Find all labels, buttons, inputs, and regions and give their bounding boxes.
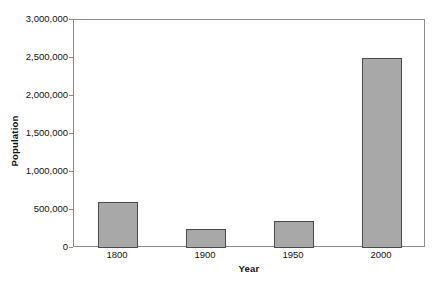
x-axis-tick-label: 1800	[87, 250, 147, 260]
x-axis-title: Year	[73, 263, 425, 274]
bar	[362, 58, 402, 248]
bar	[98, 202, 138, 248]
y-axis-tick-label: 2,500,000	[0, 52, 68, 62]
y-axis-title: Population	[0, 0, 28, 282]
y-axis-tick-label: 0	[0, 242, 68, 252]
bar	[186, 229, 226, 248]
bar	[274, 221, 314, 248]
y-axis-tick-mark	[69, 247, 73, 248]
y-axis-tick-label: 2,000,000	[0, 90, 68, 100]
y-axis-tick-label: 3,000,000	[0, 14, 68, 24]
bar-chart: Population 3,000,0002,500,0002,000,0001,…	[0, 0, 439, 282]
y-axis-tick-label: 1,500,000	[0, 128, 68, 138]
x-axis-tick-label: 1900	[175, 250, 235, 260]
x-axis-tick-label: 1950	[263, 250, 323, 260]
y-axis-tick-label: 500,000	[0, 204, 68, 214]
y-axis-tick-label: 1,000,000	[0, 166, 68, 176]
plot-area	[73, 19, 425, 247]
x-axis-tick-label: 2000	[351, 250, 411, 260]
